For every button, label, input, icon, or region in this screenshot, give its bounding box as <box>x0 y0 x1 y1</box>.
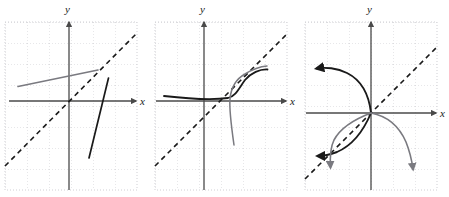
three-panel-figure: x y x y <box>0 0 449 197</box>
y-axis-label: y <box>366 3 372 15</box>
x-axis-label: x <box>289 95 295 107</box>
x-axis-label: x <box>439 107 445 119</box>
curve-and-inverse-panel: x y <box>150 0 300 197</box>
branching-curves-panel: x y <box>299 0 449 197</box>
x-axis-label: x <box>139 95 145 107</box>
panel-3-plot: x y <box>299 0 449 197</box>
y-axis-label: y <box>199 3 205 15</box>
panel-2-plot: x y <box>150 0 300 197</box>
linear-functions-panel: x y <box>0 0 150 197</box>
y-axis-label: y <box>64 3 70 15</box>
grid-area <box>155 22 287 190</box>
panel-1-plot: x y <box>0 0 150 197</box>
grid-area <box>5 22 137 190</box>
